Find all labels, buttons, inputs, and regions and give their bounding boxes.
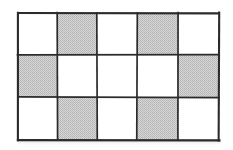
grid-cell [18,55,57,97]
grid-cell [57,55,97,97]
grid-divider-vertical [137,13,138,140]
grid-cell [57,13,97,55]
grid-cell [178,97,219,140]
grid-cell [97,55,137,97]
figure-root [0,0,233,150]
grid-border-vertical [219,13,220,141]
grid-cell [18,97,57,140]
grid-cell [57,97,97,140]
grid-cell [18,13,57,55]
cell-layer [18,13,219,140]
grid-cell [137,97,178,140]
grid-cell [137,55,178,97]
grid-cell [137,13,178,55]
grid-divider-horizontal [18,97,219,98]
grid-cell [178,13,219,55]
checkerboard-grid [0,0,233,150]
grid-cell [97,97,137,140]
grid-cell [178,55,219,97]
grid-cell [97,13,137,55]
